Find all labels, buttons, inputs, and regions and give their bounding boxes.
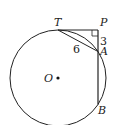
measure-pa: 3 [100,35,107,48]
measure-ta: 6 [73,43,80,56]
label-b: B [97,104,106,117]
label-o: O [44,72,53,85]
label-p: P [99,16,108,29]
geometry-diagram: T P A B O 3 6 [0,0,114,125]
center-dot [56,76,59,79]
right-angle-mark [92,30,98,36]
label-t: T [54,16,63,29]
